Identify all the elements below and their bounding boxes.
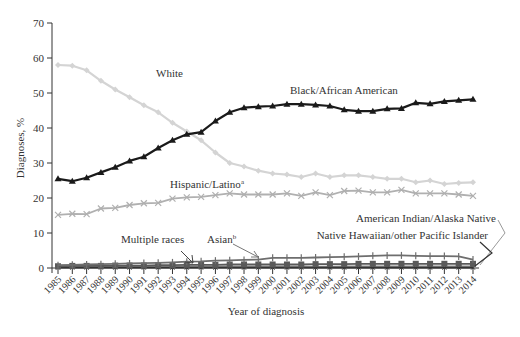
series-black-african-american [55, 96, 477, 184]
label-multiple-races: Multiple races [121, 233, 184, 245]
data-point [313, 171, 319, 177]
data-point [284, 172, 290, 178]
y-tick-label: 20 [33, 192, 45, 204]
data-point [270, 171, 276, 177]
data-point [298, 174, 304, 180]
label-nhpi: Native Hawaiian/other Pacific Islander [317, 229, 489, 241]
label-white: White [156, 67, 183, 79]
arrow-asian [233, 244, 258, 257]
label-hispanic-sup: a [241, 178, 245, 186]
y-tick-label: 0 [39, 262, 45, 274]
data-point [370, 261, 376, 267]
y-tick-label: 50 [33, 87, 45, 99]
data-point [341, 261, 347, 267]
bracket-aian [480, 220, 505, 265]
data-point [69, 63, 75, 69]
data-point [327, 261, 333, 267]
data-point [298, 262, 304, 268]
label-asian-sup: b [233, 233, 237, 241]
series-white [55, 62, 476, 187]
y-axis-label: Diagnoses, % [14, 118, 26, 179]
y-tick-label: 40 [33, 122, 45, 134]
data-point [356, 261, 362, 267]
label-black: Black/African American [290, 84, 398, 96]
data-point [456, 180, 462, 186]
data-point [55, 62, 61, 68]
data-point [456, 261, 462, 267]
label-asian: Asianb [207, 233, 237, 245]
data-point [384, 261, 390, 267]
data-point [241, 164, 247, 170]
data-point [441, 181, 447, 187]
y-tick-label: 60 [33, 52, 45, 64]
data-point [441, 261, 447, 267]
data-point [270, 262, 276, 268]
data-point [313, 261, 319, 267]
data-point [470, 179, 476, 185]
y-tick-label: 10 [33, 227, 45, 239]
x-axis-label: Year of diagnosis [228, 305, 305, 317]
label-hispanic: Hispanic/Latinoa [170, 178, 245, 190]
data-point [370, 174, 376, 180]
data-point [398, 261, 404, 267]
data-point [427, 261, 433, 267]
label-aian: American Indian/Alaska Native [356, 212, 496, 224]
line-chart: 0102030405060701985198619871988198919901… [0, 0, 520, 337]
data-point [413, 179, 419, 185]
data-point [398, 176, 404, 182]
data-point [427, 178, 433, 184]
data-point [341, 172, 347, 178]
y-tick-label: 30 [33, 157, 45, 169]
data-point [384, 176, 390, 182]
data-point [356, 172, 362, 178]
x-tick-label: 2014 [456, 274, 478, 296]
data-point [413, 261, 419, 267]
label-asian-text: Asian [207, 233, 233, 245]
arrow-nhpi [475, 242, 492, 266]
data-point [327, 174, 333, 180]
data-point [255, 168, 261, 174]
data-point [284, 262, 290, 268]
y-tick-label: 70 [33, 17, 45, 29]
label-hispanic-text: Hispanic/Latino [170, 178, 241, 190]
